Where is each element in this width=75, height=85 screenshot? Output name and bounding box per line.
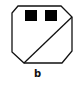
right-square <box>45 10 57 21</box>
left-square <box>25 10 37 21</box>
octagon-outline <box>12 6 72 63</box>
figure-label: b <box>0 68 75 79</box>
